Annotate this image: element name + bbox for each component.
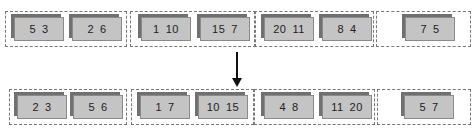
block-value: 7 — [231, 23, 238, 35]
arrow-head-icon — [232, 78, 242, 87]
after-group-1: 2 3 5 6 — [9, 89, 127, 125]
block: 7 5 — [405, 17, 455, 41]
block: 20 11 — [264, 17, 314, 41]
block: 15 7 — [200, 17, 250, 41]
block-value: 7 — [168, 101, 175, 113]
before-group-2: 1 10 15 7 — [130, 11, 256, 47]
after-row: 2 3 5 6 1 7 10 15 4 8 11 20 5 7 — [0, 89, 476, 127]
block-value: 8 — [337, 23, 344, 35]
block: 5 6 — [73, 95, 123, 119]
block-value: 5 — [88, 101, 95, 113]
block-value: 4 — [350, 23, 357, 35]
before-group-3: 20 11 8 4 — [254, 11, 374, 47]
block-value: 15 — [212, 23, 225, 35]
after-group-4: 5 7 — [377, 89, 471, 125]
block: 5 3 — [14, 17, 64, 41]
block-value: 10 — [207, 101, 220, 113]
block: 10 15 — [198, 95, 248, 119]
after-group-2: 1 7 10 15 — [131, 89, 254, 125]
block-value: 20 — [273, 23, 286, 35]
block: 5 7 — [404, 95, 454, 119]
block: 2 3 — [17, 95, 67, 119]
block-value: 15 — [226, 101, 239, 113]
block-value: 10 — [166, 23, 179, 35]
block-value: 1 — [153, 23, 160, 35]
block: 4 8 — [264, 95, 314, 119]
block: 2 6 — [72, 17, 122, 41]
block-value: 20 — [350, 101, 363, 113]
before-group-1: 5 3 2 6 — [5, 11, 127, 47]
block-value: 5 — [419, 101, 426, 113]
block-value: 5 — [29, 23, 36, 35]
block-value: 6 — [101, 101, 108, 113]
block-value: 11 — [292, 23, 304, 35]
block-value: 8 — [292, 101, 299, 113]
block-value: 1 — [155, 101, 162, 113]
before-row: 5 3 2 6 1 10 15 7 20 11 8 4 7 5 — [0, 11, 476, 49]
block-value: 6 — [100, 23, 107, 35]
block: 8 4 — [322, 17, 372, 41]
before-group-4: 7 5 — [376, 11, 471, 47]
block-value: 11 — [331, 101, 343, 113]
after-group-3: 4 8 11 20 — [254, 89, 375, 125]
block-value: 3 — [45, 101, 52, 113]
block-value: 7 — [432, 101, 439, 113]
block-value: 4 — [279, 101, 286, 113]
block-value: 5 — [433, 23, 440, 35]
block-value: 2 — [87, 23, 94, 35]
block: 1 7 — [140, 95, 190, 119]
block: 11 20 — [322, 95, 372, 119]
block-value: 7 — [420, 23, 427, 35]
block-value: 2 — [32, 101, 39, 113]
block: 1 10 — [141, 17, 191, 41]
down-arrow-icon — [236, 52, 238, 80]
block-value: 3 — [42, 23, 49, 35]
